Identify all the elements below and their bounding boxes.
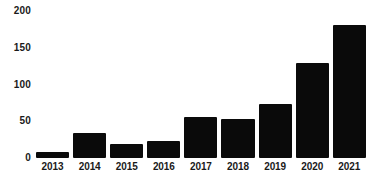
x-tick-label-2020: 2020 xyxy=(296,161,329,173)
x-tick-label-2021: 2021 xyxy=(333,161,366,173)
bar-slot xyxy=(221,11,254,158)
y-tick-label-0: 0 xyxy=(0,153,31,163)
bar-slot xyxy=(73,11,106,158)
bar-2021[interactable] xyxy=(333,25,366,158)
bar-slot xyxy=(333,11,366,158)
y-axis: 200 150 100 50 0 xyxy=(0,0,31,187)
bar-slot xyxy=(259,11,292,158)
y-tick-label-200: 200 xyxy=(0,6,31,16)
bar-2015[interactable] xyxy=(110,144,143,158)
x-tick-label-2018: 2018 xyxy=(221,161,254,173)
x-tick-label-2015: 2015 xyxy=(110,161,143,173)
bar-slot xyxy=(147,11,180,158)
x-tick-label-2013: 2013 xyxy=(36,161,69,173)
x-tick-label-2014: 2014 xyxy=(73,161,106,173)
bar-series xyxy=(36,11,374,158)
plot-area xyxy=(36,11,374,158)
bar-2014[interactable] xyxy=(73,133,106,158)
bar-2013[interactable] xyxy=(36,152,69,158)
y-tick-label-50: 50 xyxy=(0,116,31,126)
bar-2020[interactable] xyxy=(296,63,329,158)
bar-2017[interactable] xyxy=(184,117,217,158)
bar-slot xyxy=(296,11,329,158)
bar-2016[interactable] xyxy=(147,141,180,158)
bar-slot xyxy=(36,11,69,158)
x-tick-label-2017: 2017 xyxy=(184,161,217,173)
y-tick-label-100: 100 xyxy=(0,80,31,90)
bar-chart: 200 150 100 50 0 2013 2014 2015 2016 201… xyxy=(0,0,378,187)
x-tick-label-2019: 2019 xyxy=(259,161,292,173)
bar-slot xyxy=(184,11,217,158)
bar-slot xyxy=(110,11,143,158)
bar-2019[interactable] xyxy=(259,104,292,158)
y-tick-label-150: 150 xyxy=(0,43,31,53)
x-axis: 2013 2014 2015 2016 2017 2018 2019 2020 … xyxy=(36,161,374,173)
x-tick-label-2016: 2016 xyxy=(147,161,180,173)
bar-2018[interactable] xyxy=(221,119,254,158)
